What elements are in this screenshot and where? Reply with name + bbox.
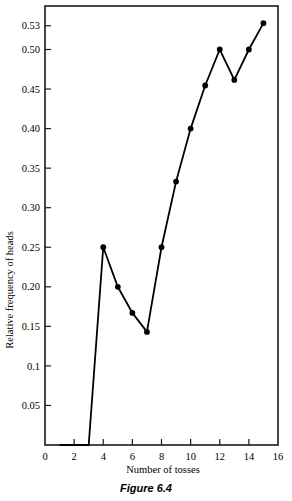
x-tick-label: 10 [185, 451, 196, 462]
data-point-marker [159, 244, 165, 250]
y-tick-label: 0.1 [27, 361, 40, 372]
data-point-marker [261, 20, 267, 26]
y-axis-label: Relative frequency of heads [4, 231, 15, 349]
data-point-marker [100, 244, 106, 250]
y-tick-label: 0.25 [22, 242, 40, 253]
x-tick-label: 12 [215, 451, 226, 462]
y-tick-label: 0.50 [22, 44, 40, 55]
x-tick-label: 4 [101, 451, 107, 462]
data-point-marker [231, 77, 237, 83]
y-tick-label: 0.05 [22, 400, 40, 411]
relative-frequency-line-chart: 0.050.10.150.200.250.300.350.400.450.500… [0, 0, 292, 480]
x-tick-label: 8 [159, 451, 164, 462]
y-tick-label: 0.40 [22, 123, 40, 134]
y-tick-label: 0.20 [22, 281, 40, 292]
x-tick-label: 2 [72, 451, 77, 462]
x-tick-label: 6 [130, 451, 135, 462]
y-tick-label: 0.53 [22, 20, 40, 31]
data-point-marker [202, 83, 208, 89]
data-point-marker [188, 126, 194, 132]
x-tick-label: 14 [244, 451, 255, 462]
x-tick-label: 0 [42, 451, 47, 462]
x-tick-label: 16 [273, 451, 284, 462]
data-point-marker [217, 47, 223, 53]
figure-container: 0.050.10.150.200.250.300.350.400.450.500… [0, 0, 292, 501]
data-point-marker [173, 179, 179, 185]
y-tick-label: 0.15 [22, 321, 40, 332]
data-point-marker [144, 329, 150, 335]
data-point-marker [129, 310, 135, 316]
chart-background [0, 0, 292, 480]
y-tick-label: 0.35 [22, 163, 40, 174]
figure-caption: Figure 6.4 [0, 482, 292, 494]
y-tick-label: 0.30 [22, 202, 40, 213]
x-axis-label: Number of tosses [126, 464, 200, 475]
data-point-marker [246, 47, 252, 53]
data-point-marker [115, 284, 121, 290]
y-tick-label: 0.45 [22, 84, 40, 95]
